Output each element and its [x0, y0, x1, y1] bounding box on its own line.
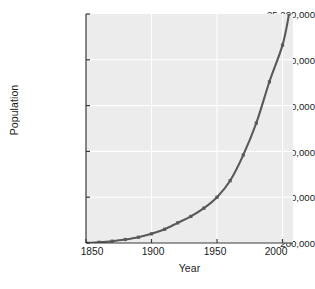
data-point-marker [111, 240, 114, 243]
data-point-marker [163, 228, 166, 231]
data-point-marker [281, 44, 284, 47]
data-point-marker [150, 232, 153, 235]
data-point-marker [176, 221, 179, 224]
data-point-marker [242, 153, 245, 156]
data-point-marker [268, 80, 271, 83]
data-point-marker [137, 236, 140, 239]
data-point-marker [202, 207, 205, 210]
plot-area-background [86, 14, 293, 243]
data-point-marker [229, 179, 232, 182]
data-point-marker [215, 196, 218, 199]
population-growth-chart: Population Year 25,200,000 20,200,000 15… [0, 0, 315, 289]
data-point-marker [287, 12, 290, 15]
chart-svg [0, 0, 315, 289]
data-point-marker [124, 238, 127, 241]
data-point-marker [255, 121, 258, 124]
data-point-marker [189, 215, 192, 218]
